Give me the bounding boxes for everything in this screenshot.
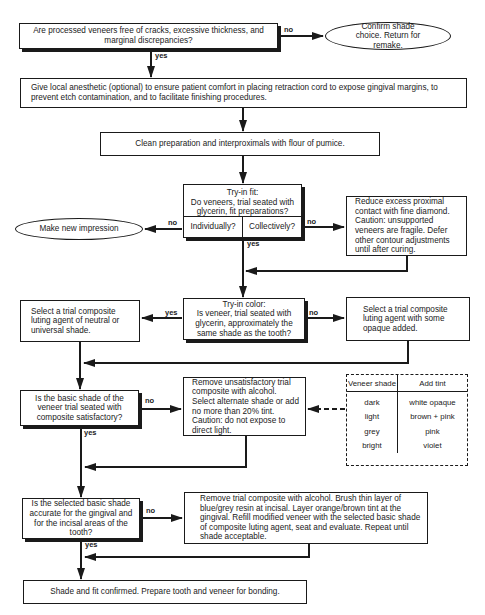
neutral-shade-text: Select a trial composite luting agent of… bbox=[31, 307, 135, 336]
table-row: greypink bbox=[347, 424, 467, 439]
veneer-shade-header: Veneer shade bbox=[347, 375, 397, 392]
remove-and-layer-step: Remove trial composite with alcohol. Bru… bbox=[184, 492, 428, 544]
selected-shade-text: Is the selected basic shade accurate for… bbox=[27, 499, 135, 537]
basic-shade-text: Is the basic shade of the veneer trial s… bbox=[25, 394, 134, 423]
anesthetic-text: Give local anesthetic (optional) to ensu… bbox=[31, 83, 462, 102]
reduce-contact-step: Reduce excess proximal contact with fine… bbox=[346, 196, 467, 256]
neutral-shade-step: Select a trial composite luting agent of… bbox=[20, 300, 140, 342]
no-label: no bbox=[309, 309, 318, 317]
opaque-added-text: Select a trial composite luting agent wi… bbox=[363, 305, 465, 334]
final-text: Shade and fit confirmed. Prepare tooth a… bbox=[50, 587, 279, 597]
basic-shade-question: Is the basic shade of the veneer trial s… bbox=[20, 390, 139, 426]
tryin-fit-text: Do veneers, trial seated with glycerin, … bbox=[188, 198, 297, 217]
reduce-contact-text: Reduce excess proximal contact with fine… bbox=[355, 197, 462, 255]
table-row: brightviolet bbox=[347, 439, 467, 454]
yes-label: yes bbox=[84, 429, 97, 437]
remake-terminal: Confirm shade choice. Return for remake. bbox=[325, 22, 451, 50]
collectively-option: Collectively? bbox=[243, 217, 301, 237]
no-label: no bbox=[307, 218, 316, 226]
yes-label: yes bbox=[165, 309, 178, 317]
tint-table: Veneer shade Add tint darkwhite opaque l… bbox=[346, 374, 468, 466]
no-label: no bbox=[146, 507, 155, 515]
no-label: no bbox=[145, 397, 154, 405]
tryin-fit-title: Try-in fit: bbox=[188, 188, 297, 198]
remove-unsatisfactory-text: Remove unsatisfactory trial composite wi… bbox=[192, 378, 301, 436]
yes-label: yes bbox=[155, 52, 168, 60]
no-label: no bbox=[168, 219, 177, 227]
tryin-color-text: Is veneer, trial seated with glycerin, a… bbox=[188, 309, 300, 338]
remove-and-layer-text: Remove trial composite with alcohol. Bru… bbox=[200, 494, 423, 542]
no-label: no bbox=[284, 26, 293, 34]
tryin-fit-question: Try-in fit: Do veneers, trial seated wit… bbox=[183, 184, 302, 238]
new-impression-terminal: Make new impression bbox=[15, 218, 143, 240]
clean-step: Clean preparation and interproximals wit… bbox=[100, 132, 380, 156]
add-tint-header: Add tint bbox=[397, 375, 467, 392]
veneer-quality-question: Are processed veneers free of cracks, ex… bbox=[19, 23, 278, 49]
table-row: lightbrown + pink bbox=[347, 410, 467, 425]
new-impression-text: Make new impression bbox=[39, 224, 118, 234]
anesthetic-step: Give local anesthetic (optional) to ensu… bbox=[20, 78, 467, 108]
yes-label: yes bbox=[247, 240, 260, 248]
remake-text: Confirm shade choice. Return for remake. bbox=[348, 22, 428, 51]
table-row: darkwhite opaque bbox=[347, 392, 467, 410]
tryin-fit-options: Individually? Collectively? bbox=[184, 216, 301, 237]
individually-option: Individually? bbox=[184, 217, 243, 237]
veneer-quality-text: Are processed veneers free of cracks, ex… bbox=[24, 26, 273, 45]
clean-text: Clean preparation and interproximals wit… bbox=[135, 139, 344, 149]
remove-unsatisfactory-step: Remove unsatisfactory trial composite wi… bbox=[183, 377, 306, 436]
tryin-color-question: Try-in color: Is veneer, trial seated wi… bbox=[183, 298, 305, 340]
yes-label: yes bbox=[85, 541, 98, 549]
tryin-color-title: Try-in color: bbox=[188, 300, 300, 310]
selected-shade-question: Is the selected basic shade accurate for… bbox=[22, 498, 140, 539]
opaque-added-step: Select a trial composite luting agent wi… bbox=[346, 297, 470, 341]
final-step: Shade and fit confirmed. Prepare tooth a… bbox=[23, 580, 307, 604]
